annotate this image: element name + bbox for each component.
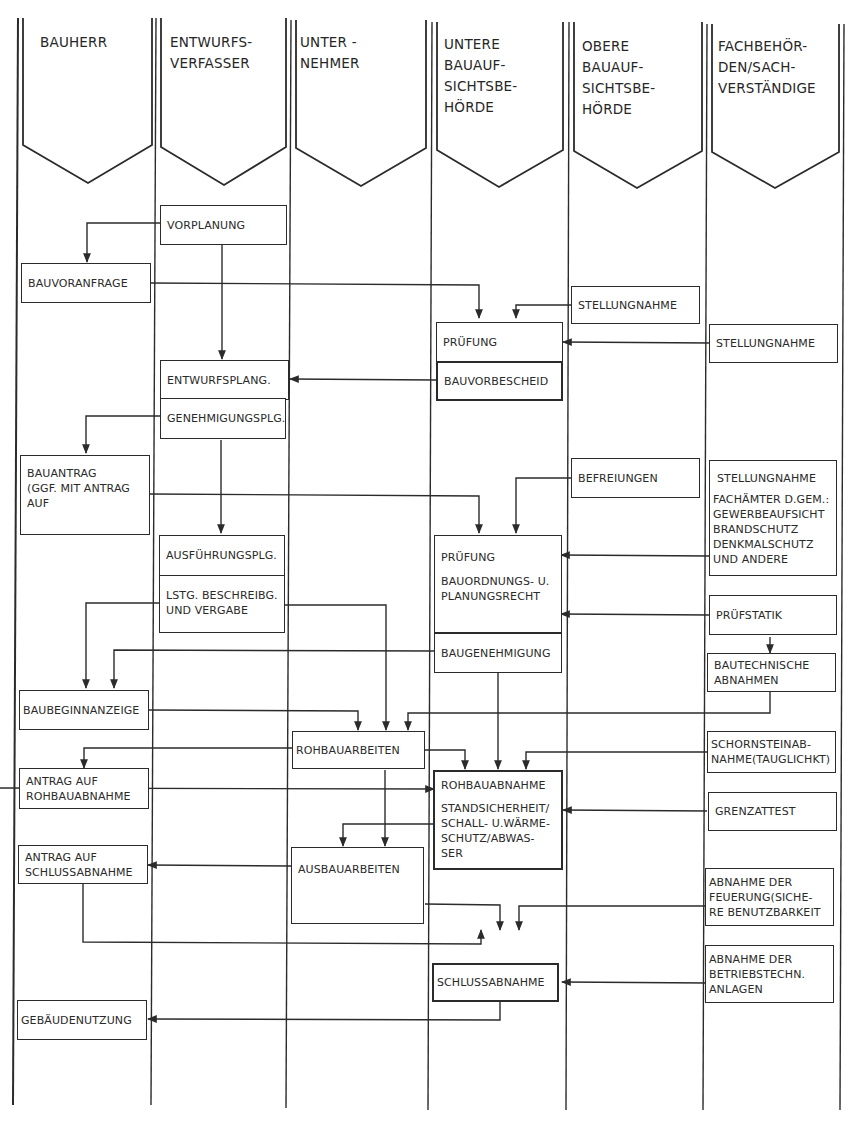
- box-gebaeudenutzung: GEBÄUDENUTZUNG: [17, 1000, 147, 1040]
- box-label: BAUVORANFRAGE: [28, 276, 144, 291]
- lane-title-bauherr: BAUHERR: [40, 32, 107, 53]
- box-vorplanung: VORPLANUNG: [160, 205, 287, 245]
- box-befreiungen: BEFREIUNGEN: [571, 458, 700, 498]
- box-rohbauarbeiten: ROHBAUARBEITEN: [292, 731, 425, 769]
- box-bauvorbescheid: BAUVORBESCHEID: [436, 361, 563, 401]
- box-schlussabnahme: SCHLUSSABNAHME: [432, 963, 559, 1002]
- box-label: BEFREIUNGEN: [578, 471, 693, 486]
- box-rohbauabnahme: ROHBAUABNAHME STANDSICHERHEIT/ SCHALL- U…: [433, 770, 563, 870]
- box-label: GEBÄUDENUTZUNG: [21, 1013, 143, 1028]
- box-pruefung-2: PRÜFUNG BAUORDNUNGS- U. PLANUNGSRECHT: [434, 535, 562, 633]
- swimlane-diagram: BAUHERR ENTWURFS- VERFASSER UNTER - NEHM…: [0, 0, 857, 1127]
- box-schornsteinabnahme: SCHORNSTEINAB- NAHME(TAUGLICHKT): [707, 731, 836, 773]
- lane-title-untere-bauaufsichtsbehoerde: UNTERE BAUAUF- SICHTSBE- HÖRDE: [444, 34, 517, 118]
- box-label: BAUGENEHMIGUNG: [441, 646, 555, 661]
- box-label: VORPLANUNG: [167, 218, 280, 233]
- box-ausfuehrungsplg: AUSFÜHRUNGSPLG.: [159, 535, 285, 576]
- box-stellungnahme-fach-2: STELLUNGNAHME FACHÄMTER D.GEM.: GEWERBEA…: [709, 460, 837, 576]
- box-label: GENEHMIGUNGSPLG.: [167, 411, 279, 426]
- box-label: BAUANTRAG (GGF. MIT ANTRAG AUF: [27, 466, 143, 511]
- box-label: ROHBAUABNAHME: [441, 778, 555, 793]
- lane-title-entwurfsverfasser: ENTWURFS- VERFASSER: [170, 32, 252, 74]
- box-label: AUSBAUARBEITEN: [298, 862, 417, 877]
- box-label: ABNAHME DER BETRIEBSTECHN. ANLAGEN: [709, 952, 830, 997]
- box-label: PRÜFSTATIK: [716, 608, 830, 623]
- box-antrag-schlussabnahme: ANTRAG AUF SCHLUSSABNAHME: [18, 845, 148, 884]
- box-label: STELLUNGNAHME: [713, 471, 833, 486]
- box-abnahme-betriebstechn: ABNAHME DER BETRIEBSTECHN. ANLAGEN: [705, 945, 834, 1003]
- box-label: LSTG. BESCHREIBG. UND VERGABE: [166, 588, 278, 618]
- box-baubeginnanzeige: BAUBEGINNANZEIGE: [19, 690, 149, 730]
- lane-title-fachbehoerden: FACHBEHÖR- DEN/SACH- VERSTÄNDIGE: [718, 36, 816, 99]
- box-label: ABNAHME DER FEUERUNG(SICHE- RE BENUTZBAR…: [709, 875, 830, 920]
- box-label: BAUVORBESCHEID: [444, 374, 555, 389]
- box-lstg-beschreibg: LSTG. BESCHREIBG. UND VERGABE: [159, 575, 285, 633]
- box-stellungnahme-fach-1: STELLUNGNAHME: [709, 324, 838, 363]
- box-pruefstatik: PRÜFSTATIK: [709, 595, 837, 635]
- box-pruefung-1: PRÜFUNG: [436, 322, 563, 362]
- lane-title-obere-bauaufsichtsbehoerde: OBERE BAUAUF- SICHTSBE- HÖRDE: [582, 36, 655, 120]
- box-label: SCHORNSTEINAB- NAHME(TAUGLICHKT): [711, 737, 832, 767]
- box-bauvoranfrage: BAUVORANFRAGE: [21, 263, 151, 303]
- box-label: BAUTECHNISCHE ABNAHMEN: [714, 658, 829, 688]
- box-grenzattest: GRENZATTEST: [708, 792, 837, 831]
- box-label: ENTWURFSPLANG.: [167, 373, 282, 388]
- box-stellungnahme-obere: STELLUNGNAHME: [571, 286, 700, 324]
- box-antrag-rohbauabnahme: ANTRAG AUF ROHBAUABNAHME: [19, 768, 149, 809]
- box-sublabel: STANDSICHERHEIT/ SCHALL- U.WÄRME- SCHUTZ…: [441, 801, 555, 861]
- box-sublabel: BAUORDNUNGS- U. PLANUNGSRECHT: [441, 574, 555, 604]
- box-bautechnische-abnahmen: BAUTECHNISCHE ABNAHMEN: [707, 653, 836, 692]
- box-abnahme-feuerung: ABNAHME DER FEUERUNG(SICHE- RE BENUTZBAR…: [705, 868, 834, 926]
- box-label: PRÜFUNG: [443, 335, 556, 350]
- box-label: STELLUNGNAHME: [716, 336, 831, 351]
- box-label: ROHBAUARBEITEN: [296, 743, 421, 758]
- box-genehmigungsplg: GENEHMIGUNGSPLG.: [160, 398, 286, 439]
- box-label: AUSFÜHRUNGSPLG.: [166, 548, 278, 563]
- box-label: ANTRAG AUF SCHLUSSABNAHME: [25, 850, 141, 880]
- box-baugenehmigung: BAUGENEHMIGUNG: [434, 633, 562, 673]
- box-label: SCHLUSSABNAHME: [437, 975, 554, 990]
- box-label: ANTRAG AUF ROHBAUABNAHME: [26, 774, 142, 804]
- box-label: STELLUNGNAHME: [578, 298, 693, 313]
- box-label: GRENZATTEST: [715, 804, 830, 819]
- box-entwurfsplang: ENTWURFSPLANG.: [160, 360, 289, 400]
- box-bauantrag: BAUANTRAG (GGF. MIT ANTRAG AUF: [20, 455, 150, 535]
- lane-title-unternehmer: UNTER - NEHMER: [300, 32, 360, 74]
- box-label: PRÜFUNG: [441, 550, 555, 565]
- box-ausbauarbeiten: AUSBAUARBEITEN: [291, 847, 424, 924]
- box-sublabel: FACHÄMTER D.GEM.: GEWERBEAUFSICHT BRANDS…: [713, 492, 833, 567]
- box-label: BAUBEGINNANZEIGE: [23, 703, 145, 718]
